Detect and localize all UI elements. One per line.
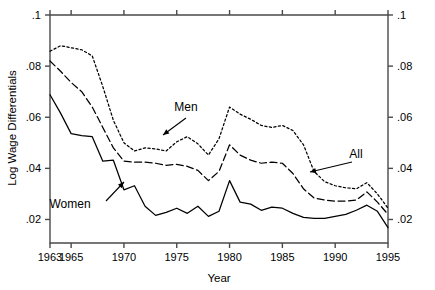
y-tick-label-right: .06 xyxy=(397,111,412,123)
line-chart: 19631965197019751980198519901995 .02.04.… xyxy=(0,0,435,290)
x-tick-label: 1990 xyxy=(323,251,347,263)
y-tick-label: .08 xyxy=(26,60,41,72)
y-tick-label-right: .1 xyxy=(397,9,406,21)
y-tick-label: .06 xyxy=(26,111,41,123)
annotation-label-men: Men xyxy=(174,100,197,114)
annotation-label-all: All xyxy=(349,147,362,161)
x-axis-title: Year xyxy=(207,272,230,284)
x-tick-label: 1970 xyxy=(112,251,136,263)
chart-background xyxy=(0,0,435,290)
x-tick-label: 1965 xyxy=(59,251,83,263)
y-tick-label-right: .08 xyxy=(397,60,412,72)
x-tick-label: 1995 xyxy=(376,251,400,263)
y-axis-title: Log Wage Differentials xyxy=(6,70,18,186)
annotation-label-women: Women xyxy=(49,197,90,211)
x-tick-label: 1975 xyxy=(165,251,189,263)
x-tick-label: 1985 xyxy=(270,251,294,263)
y-tick-label: .04 xyxy=(26,162,41,174)
y-tick-label: .02 xyxy=(26,213,41,225)
y-tick-label: .1 xyxy=(32,9,41,21)
y-tick-label-right: .02 xyxy=(397,213,412,225)
chart-figure: 19631965197019751980198519901995 .02.04.… xyxy=(0,0,435,290)
y-tick-label-right: .04 xyxy=(397,162,412,174)
x-tick-label: 1980 xyxy=(217,251,241,263)
